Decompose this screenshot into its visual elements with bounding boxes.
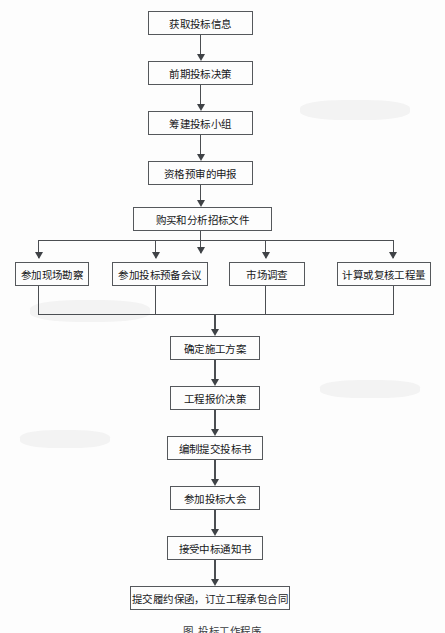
node-label: 提交履约保函，订立工程承包合同 (132, 593, 288, 604)
node-label: 购买和分析招标文件 (156, 214, 250, 225)
node-label: 工程报价决策 (184, 393, 246, 404)
node-label: 确定施工方案 (184, 343, 246, 354)
node-pricing-decision: 工程报价决策 (170, 386, 260, 410)
arrow-n4-n5 (197, 200, 205, 207)
node-label: 获取投标信息 (169, 18, 231, 29)
arrow-n6-n7 (211, 379, 219, 386)
join-riser-1 (38, 286, 39, 315)
node-early-bid-decision: 前期投标决策 (148, 61, 253, 85)
edge-n2-n3 (200, 85, 201, 106)
edge-n1-n2 (200, 35, 201, 56)
node-label: 参加投标大会 (184, 493, 246, 504)
arrow-fork-b1 (35, 252, 43, 259)
fork-bar (38, 240, 394, 241)
edge-n7-n8 (214, 410, 215, 431)
node-prequalification-application: 资格预审的申报 (148, 161, 253, 185)
arrow-join-n6 (211, 329, 219, 336)
node-buy-analyze-tender-docs: 购买和分析招标文件 (133, 207, 272, 231)
node-market-research: 市场调查 (229, 262, 305, 286)
arrow-fork-b3 (262, 252, 270, 259)
arrow-n1-n2 (197, 54, 205, 61)
node-receive-award-notice: 接受中标通知书 (167, 536, 263, 560)
node-label: 市场调查 (246, 269, 288, 280)
node-label: 计算或复核工程量 (342, 269, 425, 280)
node-attend-bid-opening: 参加投标大会 (170, 486, 260, 510)
arrow-fork-b4 (389, 252, 397, 259)
figure-caption: 图 投标工作程序 (0, 623, 445, 633)
arrow-fork-b2 (152, 252, 160, 259)
edge-n8-n9 (214, 460, 215, 481)
node-label: 参加现场勘察 (21, 269, 83, 280)
node-confirm-construction-plan: 确定施工方案 (170, 336, 260, 360)
node-quantity-takeoff: 计算或复核工程量 (337, 262, 431, 286)
node-prebid-meeting: 参加投标预备会议 (112, 262, 208, 286)
node-label: 编制提交投标书 (179, 443, 252, 454)
edge-n9-n10 (214, 510, 215, 531)
node-prepare-submit-bid: 编制提交投标书 (167, 436, 263, 460)
node-site-survey: 参加现场勘察 (15, 262, 89, 286)
node-label: 筹建投标小组 (169, 118, 231, 129)
arrow-n5-split (197, 247, 205, 254)
node-performance-bond-contract: 提交履约保函，订立工程承包合同 (130, 586, 290, 610)
arrow-n7-n8 (211, 429, 219, 436)
node-get-bid-info: 获取投标信息 (148, 11, 253, 35)
edge-n3-n4 (200, 135, 201, 156)
scan-artifact (320, 380, 420, 398)
scan-artifact (20, 430, 110, 448)
flowchart-diagram: 获取投标信息 前期投标决策 筹建投标小组 资格预审的申报 购买和分析招标文件 参… (0, 0, 445, 633)
node-label: 资格预审的申报 (164, 168, 237, 179)
node-label: 接受中标通知书 (179, 543, 252, 554)
node-form-bid-team: 筹建投标小组 (148, 111, 253, 135)
arrow-n10-n11 (211, 579, 219, 586)
node-label: 参加投标预备会议 (118, 269, 201, 280)
scan-artifact (300, 100, 410, 120)
arrow-n9-n10 (211, 529, 219, 536)
arrow-n2-n3 (197, 104, 205, 111)
join-bar (38, 314, 394, 315)
scan-artifact (30, 300, 150, 322)
arrow-n3-n4 (197, 154, 205, 161)
join-riser-4 (393, 286, 394, 315)
edge-n10-n11 (214, 560, 215, 581)
arrow-n8-n9 (211, 479, 219, 486)
join-riser-3 (265, 286, 266, 315)
join-riser-2 (155, 286, 156, 315)
edge-n6-n7 (214, 360, 215, 381)
node-label: 前期投标决策 (169, 68, 231, 79)
